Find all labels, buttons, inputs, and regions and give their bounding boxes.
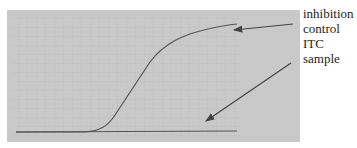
annotation-labels: inhibition control ITC sample [303, 6, 354, 66]
arrow-inhibition-control [234, 24, 293, 30]
label-sample: sample [303, 51, 354, 66]
label-inhibition: inhibition [303, 6, 354, 21]
grid [12, 14, 240, 138]
label-itc: ITC [303, 36, 354, 51]
label-control: control [303, 21, 354, 36]
